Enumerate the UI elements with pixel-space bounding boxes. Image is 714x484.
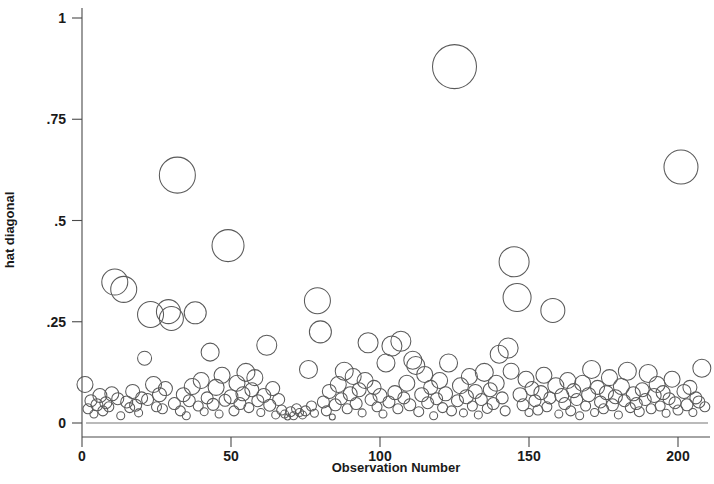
y-axis-tick-label: 0 bbox=[58, 415, 66, 431]
x-axis-tick-label: 0 bbox=[78, 448, 86, 464]
x-axis-tick-label: 200 bbox=[666, 448, 690, 464]
chart-canvas: 0.25.5.751 050100150200 Observation Numb… bbox=[0, 0, 714, 484]
y-axis-tick-label: .5 bbox=[54, 213, 66, 229]
x-axis-tick-label: 150 bbox=[517, 448, 541, 464]
y-axis-title: hat diagonal bbox=[2, 192, 17, 269]
y-axis-tick-label: .75 bbox=[47, 111, 67, 127]
scatter-plot-figure: 0.25.5.751 050100150200 Observation Numb… bbox=[0, 0, 714, 484]
x-axis-title: Observation Number bbox=[332, 460, 461, 475]
y-axis-tick-label: .25 bbox=[47, 314, 67, 330]
x-axis-tick-label: 50 bbox=[223, 448, 239, 464]
y-axis-tick-label: 1 bbox=[58, 10, 66, 26]
